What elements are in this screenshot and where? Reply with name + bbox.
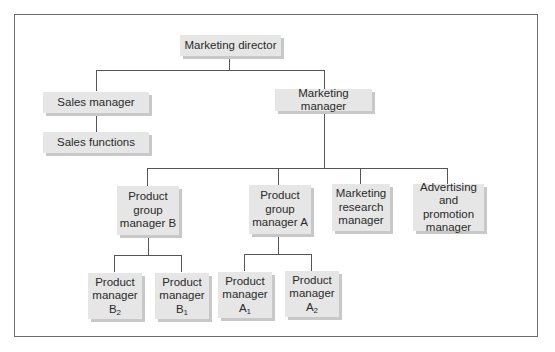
connector — [324, 111, 325, 168]
node-sales-functions: Sales functions — [43, 132, 149, 153]
subscript: 1 — [184, 308, 188, 317]
connector — [147, 168, 448, 169]
node-label-line: B1 — [176, 303, 188, 317]
node-label: Marketing director — [184, 39, 276, 53]
node-sales-manager: Sales manager — [43, 92, 149, 113]
node-marketing-manager: Marketing manager — [275, 89, 372, 111]
connector — [244, 254, 312, 255]
connector — [278, 168, 279, 186]
node-label-line: manager — [338, 214, 383, 228]
node-label-line: A1 — [239, 302, 251, 316]
node-label-line: manager — [92, 289, 137, 303]
node-label-line: group — [265, 203, 294, 217]
connector — [147, 168, 148, 186]
node-label-line: Marketing — [336, 187, 387, 201]
subscript: 2 — [117, 308, 121, 317]
node-label-line: Product — [292, 274, 332, 288]
letter: B — [176, 303, 184, 315]
node-label-line: group — [133, 204, 162, 218]
connector — [96, 113, 97, 133]
connector — [181, 255, 182, 272]
node-label-line: manager — [222, 288, 267, 302]
letter: A — [239, 302, 247, 314]
node-label: Marketing manager — [275, 87, 372, 114]
node-label-line: and promotion — [413, 194, 484, 221]
letter: B — [109, 303, 117, 315]
node-product-group-manager-a: Product group manager A — [249, 185, 311, 234]
node-product-manager-b1: Product manager B1 — [155, 273, 209, 319]
node-label-line: Advertising — [420, 181, 477, 195]
node-label-line: manager — [426, 221, 471, 235]
node-label-line: research — [339, 201, 384, 215]
subscript: 1 — [247, 307, 251, 316]
node-advertising-promotion-manager: Advertising and promotion manager — [413, 184, 484, 231]
node-label-line: manager — [159, 289, 204, 303]
node-label-line: A2 — [306, 301, 318, 315]
connector — [114, 255, 115, 272]
connector — [96, 70, 325, 71]
connector — [244, 254, 245, 271]
connector — [311, 254, 312, 271]
node-product-manager-b2: Product manager B2 — [88, 273, 142, 319]
node-label-line: Product — [225, 275, 265, 289]
node-marketing-director: Marketing director — [180, 35, 281, 56]
node-label-line: Product — [95, 276, 135, 290]
node-label-line: manager B — [120, 217, 176, 231]
node-product-manager-a2: Product manager A2 — [285, 271, 339, 317]
node-label-line: Product — [162, 276, 202, 290]
node-marketing-research-manager: Marketing research manager — [332, 184, 390, 231]
node-label-line: Product — [128, 190, 168, 204]
connector — [278, 234, 279, 254]
connector — [148, 236, 149, 256]
connector — [360, 168, 361, 184]
connector — [114, 255, 182, 256]
node-label: Sales functions — [57, 136, 135, 150]
node-product-group-manager-b: Product group manager B — [117, 186, 179, 235]
connector — [229, 56, 230, 71]
node-label-line: manager — [289, 287, 334, 301]
subscript: 2 — [314, 306, 318, 315]
node-label-line: manager A — [252, 216, 308, 230]
node-label: Sales manager — [57, 96, 134, 110]
node-label-line: Product — [260, 189, 300, 203]
node-product-manager-a1: Product manager A1 — [218, 272, 272, 318]
node-label-line: B2 — [109, 303, 121, 317]
letter: A — [306, 301, 314, 313]
connector — [96, 70, 97, 91]
